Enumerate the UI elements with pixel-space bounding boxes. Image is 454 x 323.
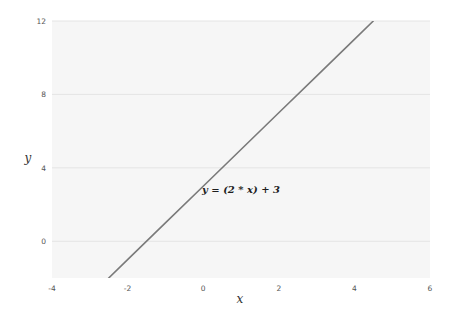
x-tick-label: -4 [48,284,56,293]
chart: y = (2 * x) + 3 -4-20246 04812 x y [0,0,454,323]
annotation-layer: y = (2 * x) + 3 [201,184,280,195]
line-chart-svg: y = (2 * x) + 3 -4-20246 04812 x y [0,0,454,323]
x-axis-title: x [237,292,244,306]
y-tick-label: 12 [36,17,46,26]
x-tick-label: 6 [428,284,433,293]
y-axis-title: y [24,151,32,165]
x-tick-label: -2 [124,284,132,293]
y-tick-label: 8 [41,90,46,99]
y-axis-ticks: 04812 [36,17,46,246]
x-tick-label: 0 [201,284,206,293]
equation-annotation: y = (2 * x) + 3 [201,184,280,195]
y-tick-label: 4 [41,164,46,173]
x-tick-label: 4 [352,284,357,293]
y-tick-label: 0 [41,237,46,246]
x-tick-label: 2 [276,284,281,293]
